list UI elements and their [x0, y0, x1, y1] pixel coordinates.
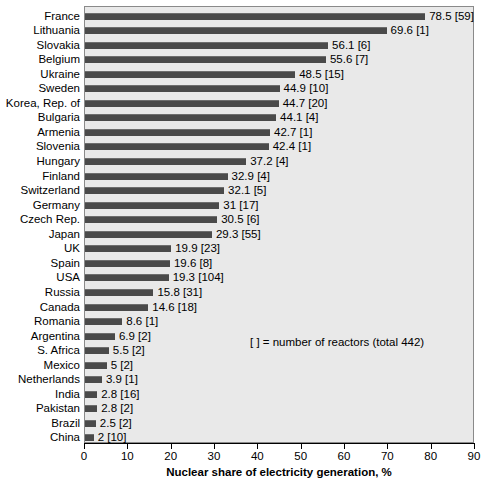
- x-tick-mark: [387, 443, 388, 449]
- category-label: Sweden: [0, 81, 80, 96]
- bar-value-label: 2.5 [2]: [100, 416, 132, 431]
- category-label: China: [0, 430, 80, 445]
- bar-value-label: 2.8 [16]: [101, 387, 139, 402]
- category-label: Slovenia: [0, 139, 80, 154]
- bar-row: Hungary37.2 [4]: [0, 154, 492, 169]
- bar-row: Belgium55.6 [7]: [0, 52, 492, 67]
- category-label: Russia: [0, 285, 80, 300]
- category-label: Germany: [0, 198, 80, 213]
- bar-row: Spain19.6 [8]: [0, 256, 492, 271]
- category-label: Armenia: [0, 125, 80, 140]
- category-label: Canada: [0, 300, 80, 315]
- bar-value-label: 15.8 [31]: [157, 285, 202, 300]
- bar-row: Pakistan2.8 [2]: [0, 401, 492, 416]
- bar: [85, 274, 169, 281]
- bar: [85, 347, 109, 354]
- bar: [85, 42, 328, 49]
- bar-value-label: 19.6 [8]: [174, 256, 212, 271]
- bar-value-label: 8.6 [1]: [126, 314, 158, 329]
- bar-row: France78.5 [59]: [0, 9, 492, 24]
- bar: [85, 71, 295, 78]
- bar-value-label: 32.1 [5]: [228, 183, 266, 198]
- category-label: Lithuania: [0, 23, 80, 38]
- x-axis-title: Nuclear share of electricity generation,…: [84, 466, 474, 478]
- category-label: Mexico: [0, 358, 80, 373]
- bar-value-label: 29.3 [55]: [216, 227, 261, 242]
- bar-row: UK19.9 [23]: [0, 241, 492, 256]
- bar-value-label: 56.1 [6]: [332, 38, 370, 53]
- bar-value-label: 19.9 [23]: [175, 241, 220, 256]
- x-tick-mark: [214, 443, 215, 449]
- category-label: Argentina: [0, 329, 80, 344]
- x-tick-label: 80: [411, 450, 451, 462]
- category-label: Brazil: [0, 416, 80, 431]
- bar-value-label: 6.9 [2]: [119, 329, 151, 344]
- bar: [85, 391, 97, 398]
- category-label: S. Africa: [0, 343, 80, 358]
- bar-row: Lithuania69.6 [1]: [0, 23, 492, 38]
- bar-value-label: 31 [17]: [223, 198, 258, 213]
- x-tick-mark: [84, 443, 85, 449]
- bar: [85, 434, 94, 441]
- nuclear-share-bar-chart: France78.5 [59]Lithuania69.6 [1]Slovakia…: [0, 0, 492, 487]
- bar-value-label: 3.9 [1]: [106, 372, 138, 387]
- bar: [85, 362, 107, 369]
- bar-row: India2.8 [16]: [0, 387, 492, 402]
- bar: [85, 245, 171, 252]
- category-label: Romania: [0, 314, 80, 329]
- bar: [85, 420, 96, 427]
- bar: [85, 187, 224, 194]
- bar: [85, 173, 228, 180]
- bar-row: Czech Rep.30.5 [6]: [0, 212, 492, 227]
- bar: [85, 56, 326, 63]
- bar-value-label: 44.1 [4]: [280, 110, 318, 125]
- category-label: Ukraine: [0, 67, 80, 82]
- bar-value-label: 44.7 [20]: [283, 96, 328, 111]
- bar: [85, 318, 122, 325]
- bar-value-label: 78.5 [59]: [429, 9, 474, 24]
- category-label: Pakistan: [0, 401, 80, 416]
- bar: [85, 114, 276, 121]
- x-tick-mark: [301, 443, 302, 449]
- bar-row: Korea, Rep. of44.7 [20]: [0, 96, 492, 111]
- x-tick-label: 50: [281, 450, 321, 462]
- bar-row: Finland32.9 [4]: [0, 169, 492, 184]
- bar-value-label: 5 [2]: [111, 358, 133, 373]
- bar-row: Slovenia42.4 [1]: [0, 139, 492, 154]
- bar: [85, 333, 115, 340]
- bar: [85, 216, 217, 223]
- bar-row: Slovakia56.1 [6]: [0, 38, 492, 53]
- category-label: Finland: [0, 169, 80, 184]
- x-tick-label: 90: [454, 450, 492, 462]
- bar-row: Romania8.6 [1]: [0, 314, 492, 329]
- bar-row: Bulgaria44.1 [4]: [0, 110, 492, 125]
- bar: [85, 85, 280, 92]
- bar: [85, 202, 219, 209]
- bar-value-label: 5.5 [2]: [113, 343, 145, 358]
- category-label: India: [0, 387, 80, 402]
- x-tick-mark: [344, 443, 345, 449]
- bar-row: Mexico5 [2]: [0, 358, 492, 373]
- category-label: Belgium: [0, 52, 80, 67]
- bar-value-label: 48.5 [15]: [299, 67, 344, 82]
- bar-row: Japan29.3 [55]: [0, 227, 492, 242]
- bar-row: Armenia42.7 [1]: [0, 125, 492, 140]
- x-tick-mark: [257, 443, 258, 449]
- category-label: Slovakia: [0, 38, 80, 53]
- bar-row: USA19.3 [104]: [0, 270, 492, 285]
- x-tick-label: 0: [64, 450, 104, 462]
- bar: [85, 129, 270, 136]
- x-tick-label: 70: [367, 450, 407, 462]
- category-label: Spain: [0, 256, 80, 271]
- bar-value-label: 44.9 [10]: [284, 81, 329, 96]
- x-tick-mark: [171, 443, 172, 449]
- category-label: Japan: [0, 227, 80, 242]
- x-tick-mark: [127, 443, 128, 449]
- reactors-legend-note: [ ] = number of reactors (total 442): [250, 336, 424, 348]
- bar: [85, 304, 148, 311]
- bar-row: Canada14.6 [18]: [0, 300, 492, 315]
- bar: [85, 143, 269, 150]
- category-label: Switzerland: [0, 183, 80, 198]
- x-tick-label: 30: [194, 450, 234, 462]
- category-label: Czech Rep.: [0, 212, 80, 227]
